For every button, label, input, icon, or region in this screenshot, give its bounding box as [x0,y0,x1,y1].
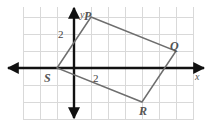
vertex-label-s: S [44,71,51,85]
y-axis-tick-label-2: 2 [58,28,64,40]
vertex-label-q: Q [170,39,179,53]
vertex-label-r: R [138,104,147,118]
x-axis-tick-label-2: 2 [93,72,99,84]
figure-background [0,0,212,126]
coordinate-plane-svg: P Q R S y x 2 2 [0,0,212,126]
y-axis-label: y [79,9,85,20]
x-axis-label: x [194,71,200,82]
coordinate-plane-figure: P Q R S y x 2 2 [0,0,212,126]
vertex-label-p: P [84,9,92,23]
